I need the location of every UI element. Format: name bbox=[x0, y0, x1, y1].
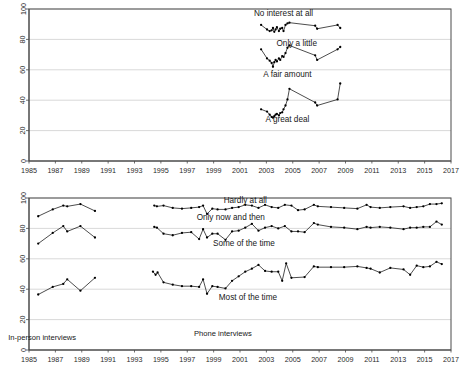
annotation-label: Only a little bbox=[276, 39, 317, 48]
two-panel-line-chart-figure: 1985198719891991199319951997199920012003… bbox=[0, 0, 465, 381]
y-axis-group: 020406080100 bbox=[19, 3, 30, 163]
series-point bbox=[172, 283, 174, 285]
series-point bbox=[37, 293, 39, 295]
series-point bbox=[290, 230, 292, 232]
series-point bbox=[330, 266, 332, 268]
series-point bbox=[211, 233, 213, 235]
series-point bbox=[152, 271, 154, 273]
series-point bbox=[153, 204, 155, 206]
x-tick-label-2013: 2013 bbox=[390, 355, 406, 364]
series-point bbox=[284, 24, 286, 26]
x-tick-label-2005: 2005 bbox=[285, 166, 301, 175]
series-point bbox=[269, 30, 271, 32]
series-point bbox=[244, 226, 246, 228]
annotation-label: A fair amount bbox=[263, 70, 312, 79]
series-point bbox=[284, 52, 286, 54]
series-point bbox=[190, 207, 192, 209]
x-tick-label-1985: 1985 bbox=[21, 166, 37, 175]
series-point bbox=[336, 98, 338, 100]
series-point bbox=[314, 101, 316, 103]
series-point bbox=[330, 226, 332, 228]
y-tick-label-20: 20 bbox=[19, 316, 28, 324]
series-point bbox=[441, 223, 443, 225]
series-point bbox=[211, 285, 213, 287]
series-point bbox=[276, 26, 278, 28]
series-point bbox=[66, 205, 68, 207]
series-point bbox=[336, 24, 338, 26]
series-point bbox=[37, 242, 39, 244]
series-point bbox=[198, 238, 200, 240]
series-point bbox=[303, 231, 305, 233]
series-point bbox=[260, 48, 262, 50]
series-point bbox=[264, 226, 266, 228]
series-point bbox=[277, 207, 279, 209]
series-point bbox=[211, 207, 213, 209]
series-point bbox=[279, 59, 281, 61]
series-point bbox=[365, 267, 367, 269]
series-point bbox=[156, 226, 158, 228]
series-point bbox=[266, 57, 268, 59]
series-point bbox=[62, 225, 64, 227]
series-point bbox=[52, 286, 54, 288]
series-point bbox=[264, 270, 266, 272]
series-point bbox=[181, 207, 183, 209]
x-tick-label-1995: 1995 bbox=[153, 355, 169, 364]
x-tick-label-2017: 2017 bbox=[443, 166, 459, 175]
series-point bbox=[231, 280, 233, 282]
series-point bbox=[52, 232, 54, 234]
series-point bbox=[286, 98, 288, 100]
series-point bbox=[389, 206, 391, 208]
series-point bbox=[316, 28, 318, 30]
series-point bbox=[202, 278, 204, 280]
series-point bbox=[336, 48, 338, 50]
series-point bbox=[154, 274, 156, 276]
series-point bbox=[339, 82, 341, 84]
series-point bbox=[282, 56, 284, 58]
series-point bbox=[429, 265, 431, 267]
series-line-2 bbox=[261, 83, 340, 117]
series-point bbox=[271, 62, 273, 64]
x-tick-label-1987: 1987 bbox=[47, 166, 63, 175]
series-point bbox=[272, 27, 274, 29]
series-point bbox=[284, 104, 286, 106]
x-axis-group: 1985198719891991199319951997199920012003… bbox=[21, 350, 459, 364]
x-tick-label-1993: 1993 bbox=[127, 166, 143, 175]
x-tick-label-1987: 1987 bbox=[47, 355, 63, 364]
series-point bbox=[162, 233, 164, 235]
y-tick-label-100: 100 bbox=[19, 192, 28, 204]
series-point bbox=[369, 268, 371, 270]
series-point bbox=[156, 205, 158, 207]
series-point bbox=[282, 108, 284, 110]
x-tick-label-1997: 1997 bbox=[179, 166, 195, 175]
x-tick-label-1989: 1989 bbox=[74, 166, 90, 175]
y-tick-label-100: 100 bbox=[19, 3, 28, 15]
series-point bbox=[276, 60, 278, 62]
series-point bbox=[339, 46, 341, 48]
series-point bbox=[290, 204, 292, 206]
series-point bbox=[286, 22, 288, 24]
series-point bbox=[162, 281, 164, 283]
series-point bbox=[216, 233, 218, 235]
series-point bbox=[190, 231, 192, 233]
series-point bbox=[303, 276, 305, 278]
series-point bbox=[314, 54, 316, 56]
series-point bbox=[389, 226, 391, 228]
series-point bbox=[238, 275, 240, 277]
series-point bbox=[303, 208, 305, 210]
series-point bbox=[389, 267, 391, 269]
annotations-group: Hardly at allOnly now and thenSome of th… bbox=[8, 196, 277, 342]
y-tick-label-20: 20 bbox=[19, 127, 28, 135]
series-point bbox=[314, 25, 316, 27]
annotation-label: In-person interviews bbox=[8, 333, 76, 342]
annotation-label: Some of the time bbox=[213, 239, 275, 248]
series-point bbox=[379, 226, 381, 228]
series-point bbox=[94, 277, 96, 279]
x-tick-label-2003: 2003 bbox=[258, 355, 274, 364]
x-tick-label-2011: 2011 bbox=[364, 166, 379, 175]
series-point bbox=[66, 278, 68, 280]
series-point bbox=[313, 265, 315, 267]
series-point bbox=[409, 207, 411, 209]
series-point bbox=[409, 226, 411, 228]
y-axis-group: 020406080100 bbox=[19, 192, 30, 352]
chart-panel-bottom: 1985198719891991199319951997199920012003… bbox=[0, 190, 465, 381]
